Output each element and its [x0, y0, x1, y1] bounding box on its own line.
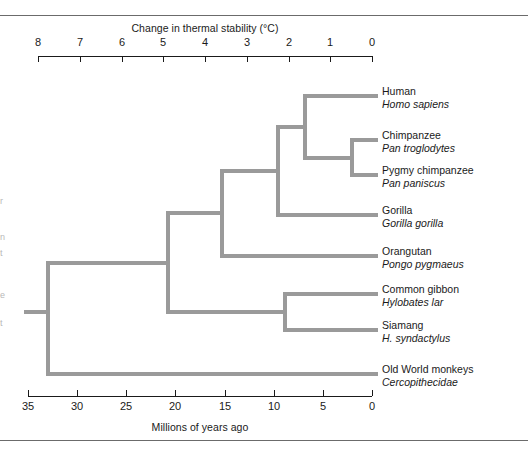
taxon-scientific-name: H. syndactylus [382, 332, 450, 345]
bottom-axis-tick-label: 15 [210, 400, 240, 412]
branch-to-hominoid-node [48, 261, 168, 265]
top-axis-tick [163, 56, 164, 62]
taxon-common-name: Siamang [382, 319, 450, 332]
taxon-common-name: Pygmy chimpanzee [382, 164, 474, 177]
top-axis-tick-label: 0 [357, 36, 387, 48]
node-catarrhine-root [46, 261, 50, 376]
taxon-common-name: Old World monkeys [382, 363, 473, 376]
top-axis-tick-label: 7 [65, 36, 95, 48]
top-axis-tick-label: 2 [274, 36, 304, 48]
taxon-label: Pygmy chimpanzeePan paniscus [382, 164, 474, 189]
bottom-axis-tick [274, 390, 275, 396]
phylogenetic-tree-figure: Change in thermal stability (°C) 8765432… [0, 0, 528, 456]
branch-pygmy-chimpanzee [352, 173, 378, 177]
bottom-axis-tick-label: 30 [62, 400, 92, 412]
bottom-axis-tick [372, 390, 373, 396]
taxon-scientific-name: Pan paniscus [382, 177, 474, 190]
top-axis-tick-label: 4 [190, 36, 220, 48]
top-axis-tick [289, 56, 290, 62]
bottom-axis-tick-label: 0 [357, 400, 387, 412]
bottom-axis-tick [77, 390, 78, 396]
branch-gorilla [278, 213, 378, 217]
taxon-scientific-name: Gorilla gorilla [382, 217, 443, 230]
page-edge-text-fragment: r [0, 196, 9, 207]
bottom-axis-tick [126, 390, 127, 396]
root-stub [24, 310, 48, 314]
taxon-scientific-name: Homo sapiens [382, 98, 449, 111]
branch-to-human-chimp-node [278, 125, 305, 129]
top-axis-tick [205, 56, 206, 62]
figure-top-rule [0, 15, 528, 16]
top-axis-tick-label: 5 [148, 36, 178, 48]
taxon-common-name: Gorilla [382, 204, 443, 217]
taxon-label: HumanHomo sapiens [382, 85, 449, 110]
taxon-label: GorillaGorilla gorilla [382, 204, 443, 229]
bottom-axis-tick [225, 390, 226, 396]
branch-human [305, 94, 378, 98]
branch-chimpanzee [352, 138, 378, 142]
taxon-label: Common gibbonHylobates lar [382, 283, 459, 308]
taxon-scientific-name: Cercopithecidae [382, 376, 473, 389]
top-axis-tick-label: 1 [315, 36, 345, 48]
branch-common-gibbon [285, 292, 378, 296]
taxon-label: Old World monkeysCercopithecidae [382, 363, 473, 388]
branch-to-african-ape-node [222, 169, 278, 173]
branch-siamang [285, 328, 378, 332]
bottom-axis-tick [323, 390, 324, 396]
taxon-label: OrangutanPongo pygmaeus [382, 245, 464, 270]
bottom-axis-title: Millions of years ago [28, 421, 372, 433]
taxon-label: ChimpanzeePan troglodytes [382, 129, 455, 154]
page-edge-text-fragment: t [0, 248, 9, 259]
branch-to-gibbon-siamang-node [168, 310, 285, 314]
branch-to-great-ape-node [168, 211, 222, 215]
page-edge-text-fragment: e [0, 290, 9, 301]
taxon-common-name: Common gibbon [382, 283, 459, 296]
page-edge-text-fragment: t [0, 318, 9, 329]
top-axis-tick [80, 56, 81, 62]
top-axis-tick [330, 56, 331, 62]
taxon-label: SiamangH. syndactylus [382, 319, 450, 344]
branch-to-chimp-pygmy-node [305, 156, 352, 160]
bottom-axis-tick-label: 20 [160, 400, 190, 412]
top-axis-tick-label: 6 [107, 36, 137, 48]
bottom-axis-tick [28, 390, 29, 396]
bottom-axis-line [28, 396, 372, 397]
top-axis-tick-label: 3 [232, 36, 262, 48]
bottom-axis-tick [175, 390, 176, 396]
top-axis-tick [247, 56, 248, 62]
taxon-scientific-name: Hylobates lar [382, 296, 459, 309]
top-axis-tick [372, 56, 373, 62]
branch-old-world-monkeys [48, 372, 378, 376]
figure-bottom-rule [0, 440, 528, 441]
bottom-axis-tick-label: 25 [111, 400, 141, 412]
taxon-common-name: Human [382, 85, 449, 98]
top-axis-title: Change in thermal stability (°C) [38, 22, 372, 34]
branch-orangutan [222, 254, 378, 258]
taxon-common-name: Chimpanzee [382, 129, 455, 142]
bottom-axis-tick-label: 5 [308, 400, 338, 412]
taxon-common-name: Orangutan [382, 245, 464, 258]
bottom-axis-tick-label: 10 [259, 400, 289, 412]
top-axis-tick-label: 8 [23, 36, 53, 48]
top-axis-tick [122, 56, 123, 62]
bottom-axis-tick-label: 35 [13, 400, 43, 412]
page-edge-text-fragment: n [0, 232, 9, 243]
taxon-scientific-name: Pongo pygmaeus [382, 258, 464, 271]
taxon-scientific-name: Pan troglodytes [382, 142, 455, 155]
top-axis-tick [38, 56, 39, 62]
